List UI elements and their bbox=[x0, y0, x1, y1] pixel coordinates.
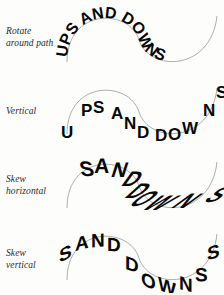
glyph-N2: N bbox=[179, 272, 193, 293]
text-on-path-figure: Rotate around path UPS AND DOWNS Vertica… bbox=[0, 0, 224, 295]
glyph-W: W bbox=[158, 272, 176, 293]
effect-row-rotate-around-path: Rotate around path UPS AND DOWNS bbox=[0, 0, 224, 75]
glyph-N2: N bbox=[203, 101, 215, 120]
effect-art-vertical: U P S A N D D O W N S bbox=[55, 72, 224, 147]
glyph-D2: D bbox=[125, 251, 139, 277]
glyph-N: N bbox=[91, 230, 105, 252]
glyph-A: A bbox=[75, 231, 89, 255]
upright-glyph-group: U P S A N D D O W N S bbox=[61, 83, 224, 145]
effect-art-skew-horizontal: S S A N D D O W N S bbox=[55, 146, 224, 221]
glyph-W: W bbox=[182, 119, 199, 138]
glyph-S3: S bbox=[207, 239, 220, 264]
glyph-A: A bbox=[94, 154, 110, 177]
effect-art-rotate-around-path: UPS AND DOWNS bbox=[55, 0, 224, 75]
effect-row-skew-horizontal: Skew horizontal S S A N D D O W N S bbox=[0, 146, 224, 221]
effect-label-skew-vertical: Skew vertical bbox=[6, 248, 36, 271]
skewed-glyph-group: S A N D D O W N S S bbox=[59, 230, 220, 293]
glyph-P: P bbox=[81, 101, 92, 120]
effect-row-skew-vertical: Skew vertical S A N D D O W N S S bbox=[0, 218, 224, 293]
glyph-D2: D bbox=[155, 126, 167, 145]
glyph-S: S bbox=[93, 98, 104, 117]
path-text-content: UPS AND DOWNS bbox=[55, 4, 168, 64]
glyph-S2: S bbox=[216, 83, 224, 102]
glyph-D: D bbox=[137, 123, 149, 142]
glyph-S: S bbox=[55, 193, 57, 217]
glyph-N: N bbox=[124, 114, 136, 133]
glyph-S2: S bbox=[195, 264, 208, 285]
effect-row-vertical: Vertical U P S A N D D O W N S bbox=[0, 72, 224, 147]
effect-label-rotate-around-path: Rotate around path bbox=[6, 26, 53, 49]
effect-label-skew-horizontal: Skew horizontal bbox=[6, 174, 46, 197]
glyph-A: A bbox=[111, 104, 123, 123]
glyph-O: O bbox=[168, 125, 181, 144]
effect-art-skew-vertical: S A N D D O W N S S bbox=[55, 218, 224, 293]
path-text-rotate: UPS AND DOWNS bbox=[55, 4, 168, 64]
effect-label-vertical: Vertical bbox=[6, 106, 36, 118]
glyph-U: U bbox=[61, 123, 73, 142]
glyph-O: O bbox=[141, 267, 156, 293]
skewed-glyph-group: S S A N D D O W N S bbox=[55, 154, 224, 216]
glyph-D: D bbox=[107, 234, 121, 256]
